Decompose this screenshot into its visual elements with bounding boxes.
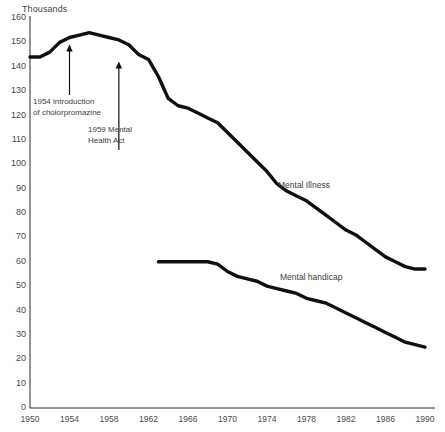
annotation-arrow-head-mental-health-act: [116, 62, 122, 69]
chart-container: Thousands 010203040506070809010011012013…: [0, 0, 445, 432]
series-label-mental-handicap: Mental handicap: [280, 272, 342, 282]
plot-area: [0, 0, 445, 432]
annotation-mental-health-act-line1: 1959 Mental: [88, 124, 132, 135]
annotation-arrow-head-chlorpromazine: [66, 45, 72, 52]
series-label-mental-illness: Mental Illness: [278, 180, 330, 190]
annotation-chlorpromazine-line1: 1954 introduction: [33, 96, 101, 107]
series-line-mental-illness: [30, 33, 425, 269]
annotation-mental-health-act-line2: Health Act: [88, 135, 132, 146]
annotation-chlorpromazine-line2: of cholorpromazine: [33, 107, 101, 118]
annotation-chlorpromazine: 1954 introduction of cholorpromazine: [33, 96, 101, 118]
annotation-mental-health-act: 1959 Mental Health Act: [88, 124, 132, 146]
